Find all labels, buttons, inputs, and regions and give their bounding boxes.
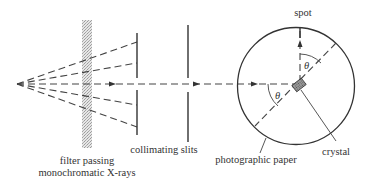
beam-arrow-icon [193,82,200,87]
crystal-leader [301,90,336,141]
xray-diffraction-diagram: θ θ spot crystal photographic paper coll… [0,0,377,182]
crystal-icon [292,78,306,92]
filter-label-line1: filter passing [60,155,115,166]
beam-arrow-icon [251,82,258,87]
spot-label: spot [294,7,312,18]
theta-label-diffracted: θ [304,60,309,71]
paper-leader [260,138,266,153]
crystal-label: crystal [322,146,350,157]
collimating-slits-label: collimating slits [130,144,197,155]
theta-label-incident: θ [275,90,280,101]
filter-label-line2: monochromatic X-rays [38,167,135,178]
beam-arrow-icon [109,82,116,87]
photographic-paper-label: photographic paper [215,154,297,165]
diffracted-arrow-icon [298,40,303,47]
